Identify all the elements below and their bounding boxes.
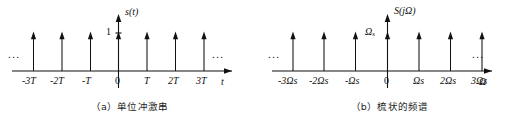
plot-area-b: S(jΩ) Ωs Ω -3Ωs -2Ωs -Ωs 0 Ωs 2Ωs 3Ωs ..… bbox=[260, 0, 519, 95]
y-axis-label-a: s(t) bbox=[125, 7, 138, 17]
impulse-minus-3T bbox=[31, 32, 36, 72]
caption-a: （a）单位冲激串 bbox=[0, 99, 259, 113]
amplitude-label-b: Ωs bbox=[365, 27, 375, 38]
x-tick-label-plus-1Ws: Ωs bbox=[413, 76, 424, 86]
impulse-plus-2T bbox=[173, 32, 178, 72]
panel-unit-impulse-train: s(t) 1 t -3T -2T -T 0 T 2T 3T ... ... （a… bbox=[0, 0, 259, 121]
x-tick-label-zero-a: 0 bbox=[115, 76, 120, 86]
x-tick-label-minus-2Ws: -2Ωs bbox=[309, 76, 328, 86]
x-tick-label-minus-3Ws: -3Ωs bbox=[278, 76, 297, 86]
figure-root: s(t) 1 t -3T -2T -T 0 T 2T 3T ... ... （a… bbox=[0, 0, 519, 121]
x-tick-label-minus-1Ws: -Ωs bbox=[345, 76, 359, 86]
impulse-plus-1Ws bbox=[416, 32, 421, 72]
impulse-minus-3Ws bbox=[290, 32, 295, 72]
x-axis-label-a: t bbox=[221, 77, 224, 87]
impulse-stems-a bbox=[31, 32, 207, 72]
x-tick-label-plus-3Ws: 3Ωs bbox=[471, 76, 487, 86]
caption-b: （b）梳状的频谱 bbox=[260, 99, 519, 113]
x-axis-a bbox=[12, 68, 232, 74]
y-axis-label-b: S(jΩ) bbox=[394, 6, 416, 16]
panel-comb-spectrum: S(jΩ) Ωs Ω -3Ωs -2Ωs -Ωs 0 Ωs 2Ωs 3Ωs ..… bbox=[260, 0, 519, 121]
left-ellipsis-a: ... bbox=[8, 49, 20, 60]
left-ellipsis-b: ... bbox=[268, 49, 280, 60]
x-tick-label-plus-2T: 2T bbox=[168, 76, 179, 86]
impulse-zero-b bbox=[385, 32, 390, 72]
impulse-stems-b bbox=[290, 32, 484, 72]
impulse-plus-2Ws bbox=[448, 32, 453, 72]
right-ellipsis-a: ... bbox=[212, 49, 224, 60]
x-tick-label-plus-3T: 3T bbox=[196, 76, 207, 86]
x-tick-label-minus-1T: -T bbox=[82, 76, 91, 86]
impulse-minus-2Ws bbox=[321, 32, 326, 72]
plot-area-a: s(t) 1 t -3T -2T -T 0 T 2T 3T ... ... bbox=[0, 0, 259, 95]
impulse-minus-1Ws bbox=[353, 32, 358, 72]
x-tick-label-minus-3T: -3T bbox=[22, 76, 36, 86]
x-tick-label-plus-1T: T bbox=[144, 76, 150, 86]
impulse-plus-1T bbox=[144, 32, 149, 72]
amplitude-label-a: 1 bbox=[106, 27, 111, 37]
x-tick-label-plus-2Ws: 2Ωs bbox=[440, 76, 456, 86]
x-axis-b bbox=[272, 68, 492, 74]
impulse-plus-3T bbox=[201, 32, 206, 72]
impulse-minus-2T bbox=[59, 32, 64, 72]
x-tick-label-minus-2T: -2T bbox=[50, 76, 64, 86]
right-ellipsis-b: ... bbox=[472, 49, 484, 60]
impulse-0 bbox=[116, 32, 121, 72]
x-tick-label-zero-b: 0 bbox=[384, 76, 389, 86]
impulse-minus-1T bbox=[88, 32, 93, 72]
